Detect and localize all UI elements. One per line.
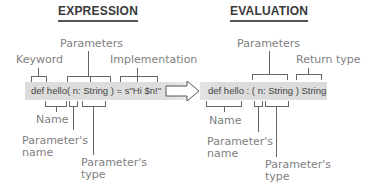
eval-param-type-bracket: [265, 101, 289, 107]
evaluation-heading: EVALUATION: [230, 4, 308, 22]
param-name-connector: [73, 107, 74, 130]
eval-param-name-connector: [258, 107, 259, 132]
label-eval-name: Name: [209, 114, 241, 127]
eval-parameters-bracket: [252, 74, 288, 80]
eval-name-connector: [224, 107, 225, 112]
parameters-connector: [88, 51, 89, 76]
label-param-name-2: name: [22, 146, 53, 159]
return-type-bracket: [296, 74, 322, 80]
eval-param-type-connector: [276, 107, 277, 157]
keyword-connector: [38, 68, 39, 76]
implementation-connector: [137, 68, 138, 76]
label-return-type: Return type: [296, 53, 361, 66]
label-implementation: Implementation: [110, 53, 197, 66]
expression-heading: EXPRESSION: [58, 4, 138, 22]
label-keyword: Keyword: [16, 53, 63, 66]
param-type-connector: [93, 107, 94, 155]
label-parameters: Parameters: [60, 37, 123, 50]
label-name: Name: [36, 113, 68, 126]
return-type-connector: [308, 68, 309, 74]
eval-parameters-connector: [269, 51, 270, 74]
right-arrow-outline-icon: [165, 80, 201, 102]
param-type-bracket: [82, 101, 106, 107]
label-eval-parameters: Parameters: [237, 37, 300, 50]
label-param-type-2: type: [81, 168, 106, 181]
label-eval-param-type-2: type: [265, 170, 290, 183]
evaluation-code: def hello : ( n: String ) String: [200, 82, 327, 100]
name-connector: [56, 107, 57, 112]
evaluation-code-bar: def hello : ( n: String ) String: [200, 82, 327, 100]
label-eval-param-name-2: name: [207, 147, 238, 160]
